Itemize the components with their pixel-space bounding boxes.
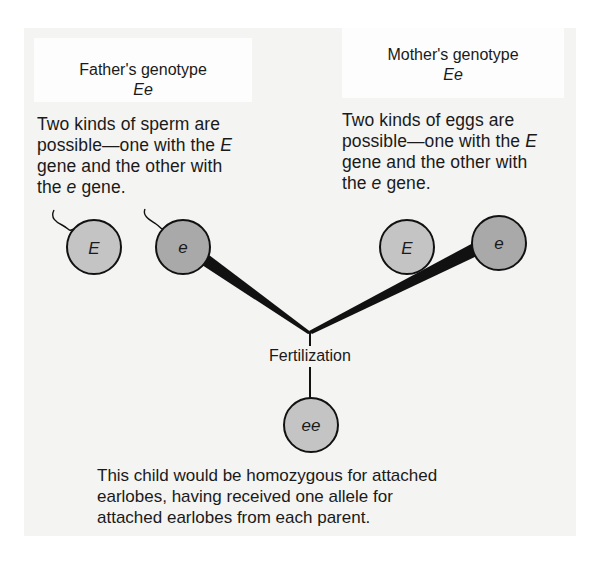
sperm-E: E bbox=[67, 220, 121, 274]
caption-line-3: attached earlobes from each parent. bbox=[97, 507, 437, 528]
sperm-tail-E bbox=[53, 210, 74, 230]
sperm-E-label: E bbox=[88, 239, 100, 258]
caption-line-1: This child would be homozygous for attac… bbox=[97, 465, 437, 486]
caption-line-2: earlobes, having received one allele for bbox=[97, 486, 437, 507]
child-zygote: ee bbox=[284, 398, 338, 452]
egg-e-label: e bbox=[494, 234, 503, 253]
egg-E-label: E bbox=[401, 239, 413, 258]
father-to-fertilization-line bbox=[199, 252, 312, 334]
sperm-tail-e bbox=[144, 209, 166, 229]
child-genotype-label: ee bbox=[302, 416, 321, 435]
egg-e: e bbox=[472, 216, 526, 270]
fertilization-label: Fertilization bbox=[250, 346, 370, 366]
sperm-e: e bbox=[156, 220, 210, 274]
egg-E: E bbox=[380, 220, 434, 274]
sperm-e-label: e bbox=[178, 238, 187, 257]
child-caption: This child would be homozygous for attac… bbox=[97, 465, 437, 528]
